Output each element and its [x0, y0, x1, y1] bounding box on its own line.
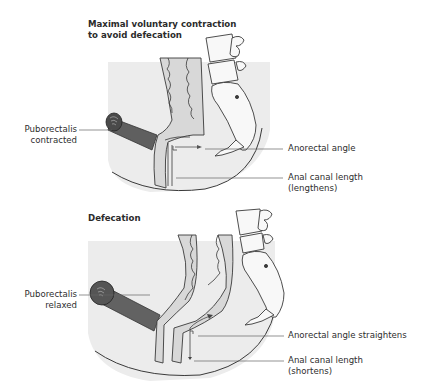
label-puborectalis-contracted: Puborectalis contracted: [20, 124, 77, 146]
panel-title-contraction: Maximal voluntary contraction to avoid d…: [88, 19, 236, 41]
label-anal-canal-lengthens: Anal canal length (lengthens): [288, 172, 363, 194]
label-anorectal-angle-straightens: Anorectal angle straightens: [288, 330, 407, 341]
panel-title-defecation: Defecation: [88, 213, 141, 224]
label-puborectalis-relaxed: Puborectalis relaxed: [20, 289, 77, 311]
label-anorectal-angle: Anorectal angle: [288, 143, 356, 154]
panel-contraction: Maximal voluntary contraction to avoid d…: [0, 0, 427, 193]
label-anal-canal-shortens: Anal canal length (shortens): [288, 355, 363, 377]
panel-defecation: Defecation Puborectalis relaxed Anorecta…: [0, 193, 427, 386]
